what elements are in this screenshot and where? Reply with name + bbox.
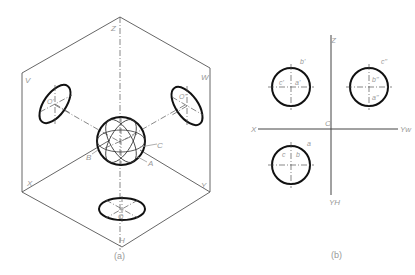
label-h: H — [119, 236, 125, 245]
label-yw: Yw — [400, 125, 412, 134]
caption-b: (b) — [331, 250, 342, 260]
label-c: C — [157, 141, 163, 150]
side-view-circle: c'' b'' a'' — [346, 58, 392, 110]
label-b: B — [86, 153, 92, 162]
label-b-lower: b — [296, 151, 300, 158]
label-x: X — [26, 179, 33, 188]
orthographic-view: Z X Yw O YH b' c' a' c'' b'' a'' a — [250, 35, 412, 260]
w-plane-ellipse: O'' — [165, 82, 208, 131]
label-x-b: X — [250, 125, 257, 134]
label-z: Z — [110, 24, 117, 33]
label-o-prime: O' — [47, 98, 54, 105]
h-plane-ellipse: O — [99, 196, 145, 222]
front-view-circle: b' c' a' — [268, 58, 314, 110]
top-view-circle: a c b — [268, 140, 314, 188]
v-plane-ellipse: O' — [33, 80, 76, 129]
label-a: A — [147, 159, 153, 168]
w-projector — [120, 105, 185, 142]
label-a-lower: a — [307, 140, 311, 147]
label-yh: YH — [329, 198, 340, 207]
label-o: O — [118, 213, 124, 220]
caption-a: (a) — [114, 251, 125, 261]
label-y: Y — [201, 181, 207, 190]
label-a-prime: a' — [295, 79, 301, 86]
isometric-view: O' O'' O C — [22, 17, 210, 261]
label-o-double-prime: O'' — [179, 93, 188, 100]
label-v: V — [25, 76, 31, 85]
label-w: W — [201, 73, 210, 82]
label-z-b: Z — [330, 36, 337, 45]
projection-diagram: O' O'' O C — [0, 0, 415, 275]
label-c-prime: c' — [279, 79, 285, 86]
sphere — [97, 115, 145, 168]
label-origin: O — [325, 119, 331, 128]
floor-edge-right — [140, 150, 210, 192]
label-c-double-prime: c'' — [381, 58, 388, 65]
label-a-double-prime: a'' — [372, 94, 379, 101]
label-c-lower: c — [282, 151, 286, 158]
label-b-prime: b' — [300, 58, 306, 65]
floor-edge-left — [22, 140, 110, 192]
label-b-double-prime: b'' — [372, 76, 379, 83]
